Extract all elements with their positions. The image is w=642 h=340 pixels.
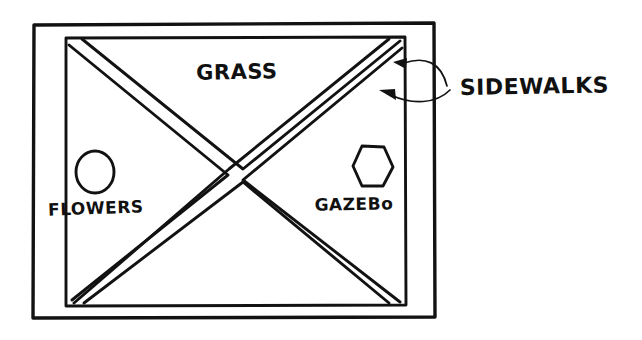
flower-bed-circle [76, 151, 114, 193]
label-sidewalks: SIDEWALKS [460, 72, 609, 100]
park-layout-drawing: GRASS FLOWERS GAZEBo SIDEWALKS [0, 0, 642, 340]
sidewalks-leader-arrows [379, 58, 450, 102]
label-gazebo: GAZEBo [314, 193, 393, 214]
park-diagram-canvas: GRASS FLOWERS GAZEBo SIDEWALKS [0, 0, 642, 340]
label-flowers: FLOWERS [48, 196, 144, 219]
label-grass: GRASS [196, 59, 278, 84]
gazebo-hexagon [353, 146, 393, 186]
